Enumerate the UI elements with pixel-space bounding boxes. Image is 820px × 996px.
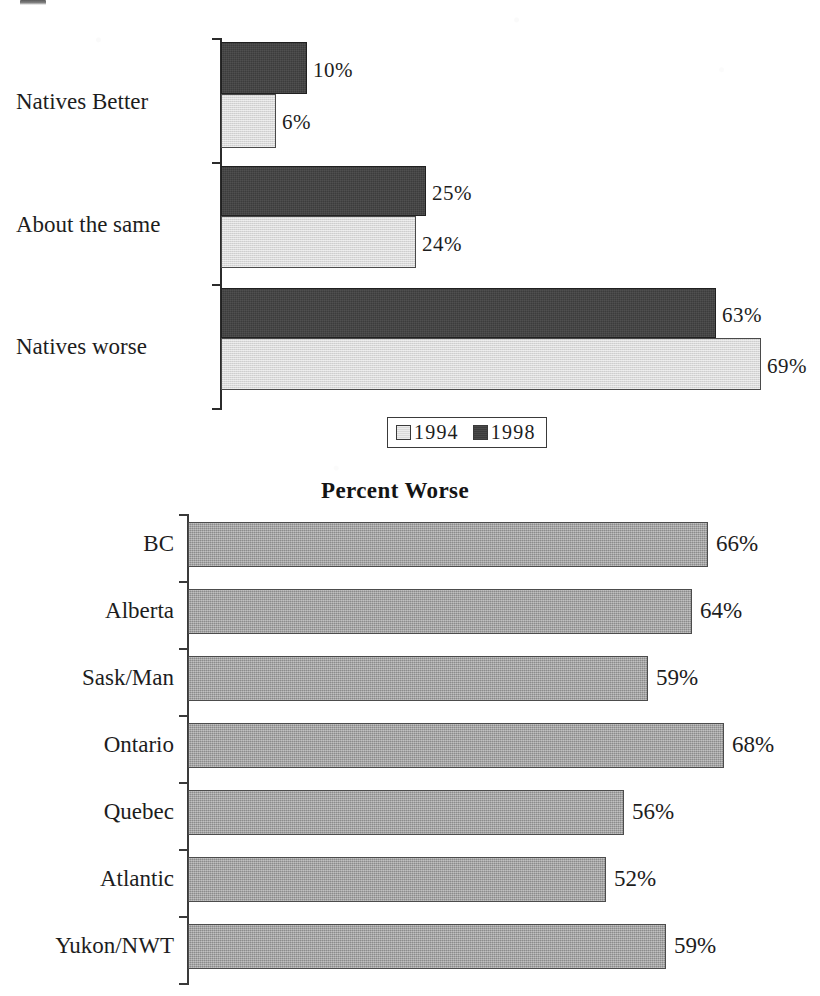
chart1-value-label-1998: 10% — [313, 60, 353, 81]
chart2-value-label: 59% — [656, 666, 698, 689]
chart2-category-label: Yukon/NWT — [0, 934, 174, 957]
chart1-bar-1994 — [221, 216, 416, 268]
legend-label-1998: 1998 — [491, 422, 536, 442]
percent-worse-bar-chart: Percent Worse BC 66% Alberta 64% Sask/Ma… — [0, 470, 820, 996]
chart2-axis-tick — [179, 648, 188, 650]
chart2-axis-tick — [179, 715, 188, 717]
chart1-bar-1998 — [221, 288, 716, 338]
chart2-value-label: 56% — [632, 800, 674, 823]
chart2-title: Percent Worse — [0, 478, 790, 504]
chart1-value-label-1994: 69% — [767, 356, 807, 377]
legend-swatch-icon-1994 — [396, 425, 411, 440]
chart1-value-label-1994: 24% — [422, 234, 462, 255]
chart2-value-label: 59% — [674, 934, 716, 957]
legend-item-1994: 1994 — [396, 422, 459, 442]
chart1-value-label-1998: 25% — [432, 183, 472, 204]
chart2-category-label: Atlantic — [0, 867, 174, 890]
chart2-axis-tick — [179, 782, 188, 784]
chart2-bar — [188, 656, 648, 701]
chart1-axis-tick — [212, 284, 221, 286]
chart1-axis-tick — [212, 38, 221, 40]
chart2-bar — [188, 723, 724, 768]
chart2-bar — [188, 924, 666, 969]
chart1-value-label-1994: 6% — [282, 112, 311, 133]
chart2-bar — [188, 790, 624, 835]
chart1-legend: 1994 1998 — [387, 417, 547, 448]
chart1-bar-1998 — [221, 42, 307, 94]
chart2-category-label: Ontario — [0, 733, 174, 756]
chart2-category-label: Sask/Man — [0, 666, 174, 689]
chart1-category-label: About the same — [0, 213, 200, 236]
chart1-bar-1994 — [221, 94, 276, 148]
chart1-axis-tick — [212, 162, 221, 164]
chart1-value-label-1998: 63% — [722, 305, 762, 326]
chart1-bar-1998 — [221, 166, 426, 216]
chart2-axis-tick — [179, 581, 188, 583]
chart2-category-label: BC — [0, 532, 174, 555]
chart1-category-label: Natives worse — [0, 335, 200, 358]
chart2-value-label: 52% — [614, 867, 656, 890]
chart1-bar-1994 — [221, 338, 761, 390]
chart2-axis-tick — [179, 983, 188, 985]
legend-label-1994: 1994 — [414, 422, 459, 442]
chart2-bar — [188, 857, 606, 902]
chart2-bar — [188, 589, 692, 634]
chart2-value-label: 64% — [700, 599, 742, 622]
chart2-bar — [188, 522, 708, 567]
chart1-axis-tick — [212, 408, 221, 410]
grouped-bar-chart-comparison: Natives Better 10% 6% About the same 25%… — [0, 30, 820, 425]
cropped-title-remnant — [20, 0, 46, 5]
legend-swatch-icon-1998 — [473, 425, 488, 440]
chart2-value-label: 66% — [716, 532, 758, 555]
chart2-axis-tick — [179, 514, 188, 516]
chart2-axis-tick — [179, 916, 188, 918]
legend-item-1998: 1998 — [473, 422, 536, 442]
chart2-value-label: 68% — [732, 733, 774, 756]
chart2-axis-tick — [179, 849, 188, 851]
chart1-category-label: Natives Better — [0, 90, 200, 113]
chart2-category-label: Alberta — [0, 599, 174, 622]
chart2-category-label: Quebec — [0, 800, 174, 823]
